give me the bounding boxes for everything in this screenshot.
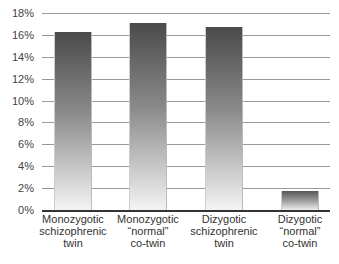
x-tick-label-line: Dizygotic xyxy=(255,213,339,225)
bar-chart: 0%2%4%6%8%10%12%14%16%18% Monozygoticsch… xyxy=(0,0,339,264)
bar-4 xyxy=(282,191,318,210)
bar-3 xyxy=(206,27,242,210)
bar-1 xyxy=(55,32,91,210)
y-tick-label: 18% xyxy=(0,7,34,19)
gridline xyxy=(42,13,330,14)
x-tick-label: Dizygotic“normal”co-twin xyxy=(255,213,339,249)
x-tick-label-line: co-twin xyxy=(255,237,339,249)
bar-2 xyxy=(130,23,166,210)
x-axis-line xyxy=(42,210,330,212)
y-tick-label: 10% xyxy=(0,95,34,107)
y-tick-label: 2% xyxy=(0,182,34,194)
y-tick-label: 14% xyxy=(0,51,34,63)
y-tick-label: 8% xyxy=(0,116,34,128)
x-tick-label-line: “normal” xyxy=(255,225,339,237)
y-tick-label: 6% xyxy=(0,138,34,150)
y-tick-label: 16% xyxy=(0,29,34,41)
y-tick-label: 4% xyxy=(0,160,34,172)
y-tick-label: 12% xyxy=(0,73,34,85)
